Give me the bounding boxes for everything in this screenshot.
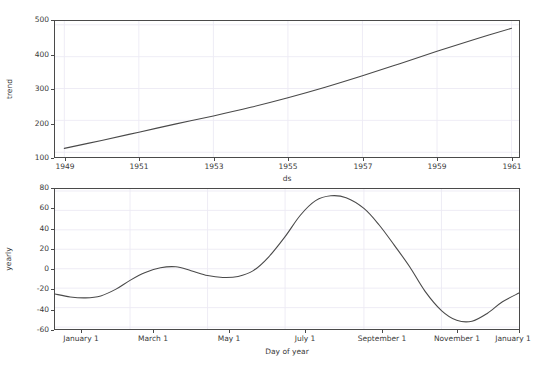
trend-xtick-1953: 1953 [204, 163, 223, 171]
yearly-xtickmark [457, 330, 458, 333]
yearly-ytick-0: 0 [26, 265, 49, 273]
trend-ytick-300: 300 [28, 85, 49, 93]
trend-ytickmark [51, 20, 54, 21]
yearly-ytickmark [51, 208, 54, 209]
yearly-ytickmark [51, 188, 54, 189]
yearly-plot-svg [55, 189, 519, 329]
trend-xtickmark [512, 158, 513, 161]
yearly-ytick--20: -20 [26, 286, 49, 294]
yearly-xtick-january-1-end: January 1 [495, 335, 531, 343]
trend-ytick-400: 400 [28, 51, 49, 59]
trend-ytickmark [51, 89, 54, 90]
yearly-yaxis-title: yearly [4, 247, 13, 270]
trend-xtickmark [363, 158, 364, 161]
yearly-ytickmark [51, 289, 54, 290]
trend-xtick-1957: 1957 [353, 163, 372, 171]
trend-ytick-500: 500 [28, 16, 49, 24]
trend-xaxis-title: ds [283, 174, 292, 183]
yearly-xtickmark [153, 330, 154, 333]
yearly-xtick-july-1: July 1 [295, 335, 316, 343]
yearly-ytick-40: 40 [26, 225, 49, 233]
trend-xtickmark [139, 158, 140, 161]
trend-xtickmark [437, 158, 438, 161]
yearly-xtickmark [382, 330, 383, 333]
yearly-ytick-20: 20 [26, 245, 49, 253]
trend-plot-svg [55, 21, 519, 157]
trend-xtick-1961: 1961 [502, 163, 521, 171]
trend-ytickmark [51, 124, 54, 125]
yearly-xtick-january-1-start: January 1 [63, 335, 99, 343]
trend-xtickmark [214, 158, 215, 161]
trend-xtick-1949: 1949 [55, 163, 74, 171]
yearly-ytick--40: -40 [26, 306, 49, 314]
trend-yaxis-title: trend [5, 79, 14, 99]
yearly-xtickmark [229, 330, 230, 333]
yearly-xtick-september-1: September 1 [358, 335, 407, 343]
yearly-ytickmark [51, 310, 54, 311]
trend-ytick-100: 100 [28, 154, 49, 162]
yearly-ytickmark [51, 269, 54, 270]
yearly-ytickmark [51, 330, 54, 331]
yearly-xtickmark [519, 330, 520, 333]
yearly-ytick-60: 60 [26, 205, 49, 213]
prophet-components-figure: 500 400 300 200 100 1949 1951 1953 1955 … [0, 0, 538, 376]
yearly-xtickmark [81, 330, 82, 333]
yearly-xtick-may-1: May 1 [218, 335, 241, 343]
yearly-ytick-80: 80 [26, 184, 49, 192]
trend-ytickmark [51, 158, 54, 159]
trend-xtick-1955: 1955 [278, 163, 297, 171]
yearly-xtickmark [305, 330, 306, 333]
yearly-xtick-march-1: March 1 [138, 335, 168, 343]
truncated-header-text [0, 0, 538, 1]
trend-xtickmark [65, 158, 66, 161]
yearly-xtick-november-1: November 1 [434, 335, 480, 343]
yearly-xaxis-title: Day of year [265, 347, 309, 356]
yearly-ytickmark [51, 249, 54, 250]
yearly-ytickmark [51, 229, 54, 230]
trend-xtick-1951: 1951 [129, 163, 148, 171]
trend-xtick-1959: 1959 [427, 163, 446, 171]
trend-ytick-200: 200 [28, 120, 49, 128]
yearly-ytick--60: -60 [26, 326, 49, 334]
yearly-axes [54, 188, 520, 330]
trend-xtickmark [288, 158, 289, 161]
trend-ytickmark [51, 55, 54, 56]
trend-axes [54, 20, 520, 158]
